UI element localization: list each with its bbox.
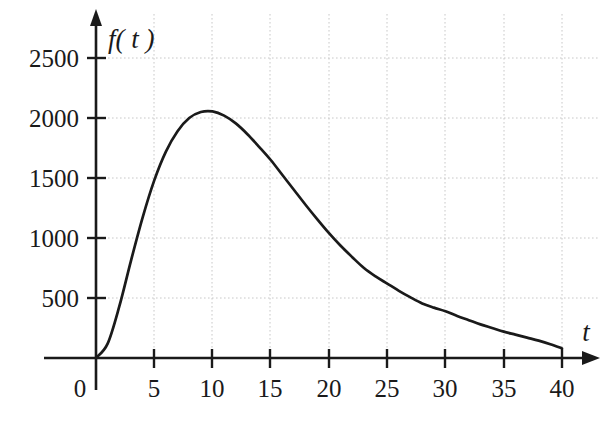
y-tick-label-2500: 2500 [29,45,79,72]
x-tick-label-25: 25 [375,375,400,402]
x-tick-label-5: 5 [148,375,161,402]
x-tick-label-40: 40 [550,375,575,402]
x-tick-label-15: 15 [258,375,283,402]
y-tick-label-1000: 1000 [29,225,79,252]
function-plot: 2500 2000 1500 1000 500 0 5 10 15 20 25 … [0,0,616,423]
y-axis-title: f( t ) [108,24,155,54]
x-tick-label-0: 0 [74,375,87,402]
y-tick-label-500: 500 [42,285,80,312]
x-tick-label-30: 30 [433,375,458,402]
plot-background [0,0,616,423]
x-axis-tick-labels: 0 5 10 15 20 25 30 35 40 [74,375,575,402]
y-tick-label-1500: 1500 [29,165,79,192]
y-tick-label-2000: 2000 [29,105,79,132]
x-tick-label-20: 20 [317,375,342,402]
chart-figure: 2500 2000 1500 1000 500 0 5 10 15 20 25 … [0,0,616,423]
x-tick-label-10: 10 [200,375,225,402]
x-tick-label-35: 35 [492,375,517,402]
